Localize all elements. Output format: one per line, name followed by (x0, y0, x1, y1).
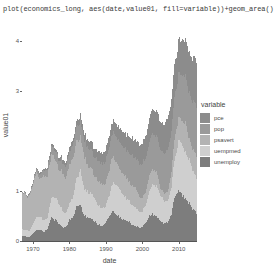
legend-swatch-pce (200, 113, 210, 123)
legend-item-uempmed: uempmed (200, 145, 276, 156)
legend-item-unemploy: unemploy (200, 156, 276, 167)
x-tick-label: 1980 (56, 246, 82, 252)
y-tick-label: 4 (16, 38, 19, 44)
stacked-area-svg (22, 26, 197, 241)
x-tick-label: 2000 (129, 246, 155, 252)
y-tick-mark (20, 91, 22, 92)
y-tick: 3 (6, 88, 19, 94)
legend-label: psavert (214, 135, 234, 145)
x-tick-mark (106, 242, 107, 244)
legend-swatch-uempmed (200, 146, 210, 156)
y-tick-label: 3 (16, 88, 19, 94)
legend-swatch-pop (200, 124, 210, 134)
x-axis-title: date (22, 257, 197, 265)
x-tick-label: 2010 (166, 246, 192, 252)
legend-item-psavert: psavert (200, 134, 276, 145)
legend-label: unemploy (214, 157, 240, 167)
y-tick: 1 (6, 188, 19, 194)
r-graphics-window: plot(economics_long, aes(date,value01, f… (0, 0, 280, 277)
x-tick-mark (33, 242, 34, 244)
legend-label: pop (214, 124, 224, 134)
x-tick-mark (179, 242, 180, 244)
legend-swatch-unemploy (200, 157, 210, 167)
y-tick-mark (20, 241, 22, 242)
x-tick-label: 1990 (93, 246, 119, 252)
legend-label: uempmed (214, 146, 241, 156)
x-tick-mark (142, 242, 143, 244)
legend-item-pop: pop (200, 123, 276, 134)
legend-swatch-psavert (200, 135, 210, 145)
y-tick-mark (20, 41, 22, 42)
legend-items: pcepoppsavertuempmedunemploy (200, 112, 276, 167)
x-tick-mark (69, 242, 70, 244)
chart-panel (22, 26, 197, 241)
plot-region: 0134 19701980199020002010 date value01 v… (0, 18, 280, 277)
y-tick-mark (20, 191, 22, 192)
code-caption: plot(economics_long, aes(date,value01, f… (3, 3, 277, 15)
legend-title: variable (200, 100, 276, 109)
legend-item-pce: pce (200, 112, 276, 123)
x-tick-label: 1970 (20, 246, 46, 252)
y-tick-label: 1 (16, 188, 19, 194)
x-axis-line (22, 241, 197, 242)
y-axis-title: value01 (2, 105, 10, 145)
y-tick: 0 (6, 238, 19, 244)
y-tick: 4 (6, 38, 19, 44)
y-tick-label: 0 (16, 238, 19, 244)
legend: variable pcepoppsavertuempmedunemploy (200, 100, 276, 167)
legend-label: pce (214, 113, 224, 123)
